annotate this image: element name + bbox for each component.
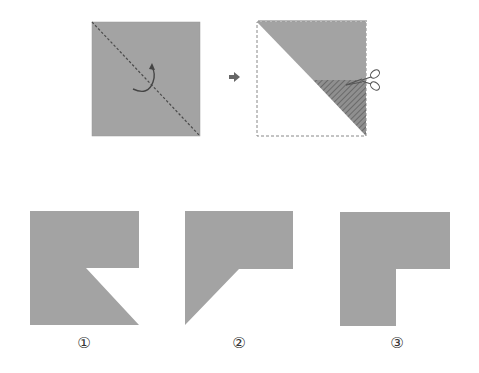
- folded-triangle-upper: [257, 22, 366, 80]
- step-1-square: [92, 22, 200, 136]
- diagram-canvas: [0, 0, 479, 373]
- option-1-label[interactable]: ①: [77, 336, 90, 351]
- option-2-label[interactable]: ②: [232, 336, 245, 351]
- option-3-shape[interactable]: [340, 212, 450, 326]
- step-2-folded: [257, 21, 381, 136]
- option-3-label[interactable]: ③: [390, 336, 403, 351]
- right-arrow-icon: [229, 72, 240, 82]
- option-2-shape[interactable]: [185, 211, 293, 325]
- option-1-shape[interactable]: [30, 211, 139, 325]
- cut-away-region: [313, 80, 366, 136]
